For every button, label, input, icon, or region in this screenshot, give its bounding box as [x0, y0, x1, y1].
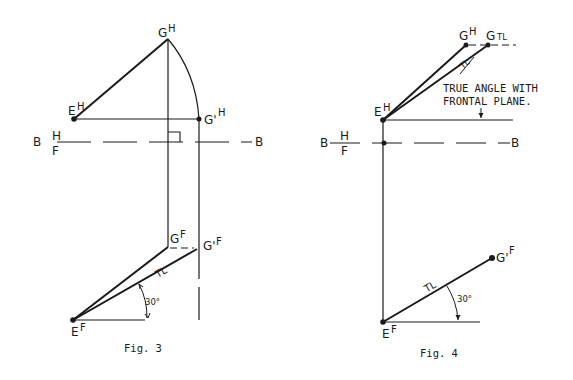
label-ef: E	[71, 325, 79, 339]
line-ef-gpf-tl	[73, 249, 197, 320]
label-g-sup: H	[168, 23, 176, 34]
label-g: G	[158, 26, 167, 40]
label-fold-f: F	[341, 144, 348, 158]
label-angle: 30°	[457, 294, 472, 304]
caption-fig4: Fig. 4	[420, 347, 458, 359]
point-ef	[380, 319, 386, 325]
label-gf-sup: F	[180, 229, 186, 240]
figure-3-points	[70, 116, 201, 323]
label-b-right: B	[255, 135, 263, 149]
label-gpf-sup: F	[216, 236, 222, 247]
point-gph	[197, 117, 202, 122]
label-gp: G'	[204, 113, 217, 127]
label-ef: E	[382, 327, 390, 341]
arrowhead-angle	[456, 315, 461, 320]
revolution-arc	[168, 39, 199, 119]
right-angle-mark	[168, 132, 180, 142]
label-fold-h: H	[52, 129, 61, 143]
point-gh	[464, 43, 469, 48]
label-ef-sup: F	[391, 324, 397, 335]
label-ef-sup: F	[80, 322, 86, 333]
label-gf: G	[170, 232, 179, 246]
descriptive-geometry-diagram: G H E H G' H B B H F G F G' F E F TL 30°…	[0, 0, 573, 380]
label-b-right: B	[511, 136, 519, 150]
label-gpf: G'	[203, 239, 216, 253]
note-line1: TRUE ANGLE WITH	[443, 82, 538, 94]
label-gh: G	[459, 29, 468, 43]
label-gh-sup: H	[469, 26, 477, 37]
label-gtl: G	[486, 29, 495, 43]
line-ef-gf	[73, 247, 168, 320]
point-ef	[70, 317, 76, 323]
label-eh: E	[374, 105, 382, 119]
label-e-sup: H	[77, 101, 85, 112]
note-line2: FRONTAL PLANE.	[443, 95, 532, 107]
label-gpf-sup: F	[509, 245, 515, 256]
label-e: E	[68, 104, 76, 118]
label-gtl-sub: TL	[496, 32, 507, 42]
label-angle: 30°	[145, 297, 160, 307]
arrowhead-bottom	[145, 313, 150, 318]
label-tl: TL	[421, 279, 438, 295]
line-eh-gh	[74, 39, 168, 119]
point-gtl	[486, 43, 491, 48]
label-b-left: B	[33, 135, 41, 149]
label-eh-sup: H	[383, 102, 391, 113]
label-fold-f: F	[52, 144, 59, 158]
line-ef-gpf-tl	[383, 258, 492, 322]
figure-3	[57, 39, 252, 320]
caption-fig3: Fig. 3	[124, 342, 162, 354]
point-gpf	[489, 255, 495, 261]
label-gp-sup: H	[218, 107, 226, 118]
point-fold	[382, 141, 387, 146]
label-b-left: B	[320, 136, 328, 150]
label-fold-h: H	[340, 129, 349, 143]
label-gpf: G'	[496, 251, 509, 265]
arrowhead-frontal	[479, 113, 484, 118]
